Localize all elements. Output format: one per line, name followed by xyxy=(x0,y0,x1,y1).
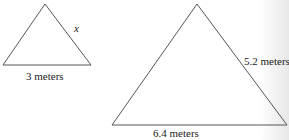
large-side-label: 5.2 meters xyxy=(244,55,289,67)
small-base-label: 3 meters xyxy=(26,70,64,82)
small-triangle xyxy=(3,4,91,65)
small-side-label: x xyxy=(74,22,79,34)
large-base-label: 6.4 meters xyxy=(153,127,199,139)
